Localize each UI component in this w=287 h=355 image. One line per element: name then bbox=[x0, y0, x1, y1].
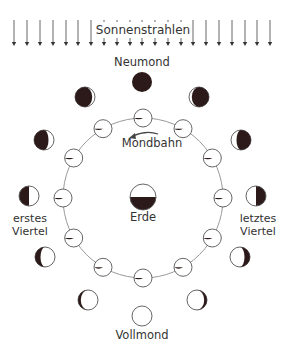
orbit-moon-icon bbox=[174, 258, 192, 276]
orbit-moon-icon bbox=[203, 229, 221, 247]
new-moon-label: Neumond bbox=[114, 55, 170, 69]
sun-ray-arrow-icon bbox=[204, 20, 208, 46]
orbit-moon-icon bbox=[94, 258, 112, 276]
moon-phase-icon bbox=[230, 247, 250, 267]
orbit-moon-icon bbox=[94, 120, 112, 138]
sun-ray-arrow-icon bbox=[76, 20, 80, 46]
first-quarter-label-line2: Viertel bbox=[12, 225, 48, 238]
last-quarter-label-line2: Viertel bbox=[240, 225, 276, 238]
earth-icon bbox=[130, 184, 156, 210]
orbit-moon-icon bbox=[54, 189, 72, 207]
orbit-moon-icon bbox=[214, 189, 232, 207]
orbit-moon-icon bbox=[134, 269, 152, 287]
moon-phase-icon bbox=[231, 130, 251, 150]
moon-phase-icon bbox=[132, 306, 152, 326]
sun-ray-arrow-icon bbox=[230, 20, 234, 46]
moon-phase-icon bbox=[189, 87, 209, 107]
last-quarter-label-line1: letztes bbox=[240, 212, 277, 225]
earth-label: Erde bbox=[130, 210, 156, 224]
moon-phases-diagram: Sonnenstrahlen Neumond Mondbahn Erde ers… bbox=[0, 0, 287, 355]
sun-ray-arrow-icon bbox=[38, 20, 42, 46]
sun-ray-arrow-icon bbox=[89, 20, 93, 46]
sun-ray-arrow-icon bbox=[217, 20, 221, 46]
moon-phase-icon bbox=[187, 290, 207, 310]
orbit-moon-icon bbox=[203, 149, 221, 167]
diagram-canvas: Sonnenstrahlen Neumond Mondbahn Erde ers… bbox=[0, 0, 287, 355]
moon-phase-icon bbox=[19, 186, 39, 206]
orbit-label: Mondbahn bbox=[122, 136, 182, 150]
earth-globe bbox=[130, 184, 156, 210]
sun-ray-arrow-icon bbox=[12, 20, 16, 46]
sun-ray-arrow-icon bbox=[243, 20, 247, 46]
first-quarter-label-line1: erstes bbox=[13, 212, 47, 225]
sun-ray-arrow-icon bbox=[191, 20, 195, 46]
moon-phase-icon bbox=[132, 72, 152, 92]
sun-ray-arrow-icon bbox=[255, 20, 259, 46]
orbit-moon-icon bbox=[134, 109, 152, 127]
moon-phase-icon bbox=[34, 130, 54, 150]
moon-phase-icon bbox=[75, 87, 95, 107]
sun-ray-arrow-icon bbox=[25, 20, 29, 46]
sun-ray-arrow-icon bbox=[64, 20, 68, 46]
sun-ray-arrow-icon bbox=[51, 20, 55, 46]
moon-phase-icon bbox=[246, 186, 266, 206]
moon-phase-icon bbox=[78, 290, 98, 310]
moon-phase-icon bbox=[35, 247, 55, 267]
sun-rays-label: Sonnenstrahlen bbox=[96, 23, 190, 37]
orbit-moon-icon bbox=[65, 149, 83, 167]
full-moon-label: Vollmond bbox=[115, 328, 168, 342]
orbit-moon-icon bbox=[174, 120, 192, 138]
orbit-moon-icon bbox=[65, 229, 83, 247]
sun-ray-arrow-icon bbox=[268, 20, 272, 46]
